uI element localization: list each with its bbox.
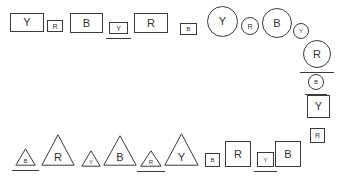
- shape-tri-r: R: [41, 134, 75, 166]
- shape-circ-b: B: [262, 8, 292, 38]
- triangle-outline: [164, 133, 199, 166]
- shape-label: R: [315, 132, 320, 139]
- shape-underline: [300, 72, 334, 73]
- shape-circ-y: Y: [293, 23, 309, 39]
- shape-sq-b: B: [205, 153, 220, 167]
- triangle-outline: [81, 150, 101, 167]
- triangle-outline: [41, 134, 75, 166]
- shape-rect-r: R: [134, 13, 168, 33]
- shape-rect-y: Y: [10, 13, 44, 32]
- shape-label: R: [147, 18, 155, 29]
- shape-label: R: [234, 149, 242, 160]
- shape-circ-b: B: [308, 74, 324, 90]
- triangle-outline: [140, 150, 162, 167]
- shape-sq-r: R: [310, 128, 325, 143]
- shape-rect-b: B: [70, 13, 103, 33]
- shape-label: B: [83, 18, 90, 29]
- shape-sq-b: B: [275, 141, 301, 167]
- shape-label: Y: [315, 101, 322, 112]
- shape-label: R: [247, 23, 252, 30]
- shape-circ-y: Y: [207, 6, 238, 37]
- shape-tri-r: R: [140, 150, 162, 167]
- shape-sq-r: R: [225, 141, 251, 167]
- shape-label: R: [313, 49, 321, 60]
- shape-label: B: [210, 157, 214, 163]
- shape-label: B: [284, 149, 291, 160]
- shape-tri-y: Y: [164, 133, 199, 166]
- shape-label: B: [186, 26, 190, 32]
- shape-label: Y: [23, 17, 30, 28]
- shape-underline: [106, 38, 131, 39]
- shape-underline: [137, 171, 165, 172]
- shape-label: Y: [219, 16, 226, 27]
- shape-tri-b: B: [15, 148, 36, 166]
- shape-sq-y: Y: [307, 95, 330, 118]
- shape-label: R: [52, 23, 57, 30]
- shape-sq-y: Y: [109, 22, 128, 34]
- shape-sq-r: R: [47, 20, 63, 32]
- shape-label: Y: [116, 25, 121, 32]
- shape-tri-b: B: [103, 135, 137, 166]
- shape-sq-y: Y: [257, 152, 274, 167]
- shape-circ-r: R: [241, 17, 259, 35]
- shape-tri-y: Y: [81, 150, 101, 167]
- shape-circ-r: R: [303, 40, 331, 68]
- shape-label: B: [273, 18, 280, 29]
- shape-label: Y: [299, 28, 303, 34]
- triangle-outline: [103, 135, 137, 166]
- shape-underline: [254, 171, 277, 172]
- triangle-outline: [15, 148, 36, 166]
- shape-sequence-canvas: YRBYRBYRBYRBYRBRYBRYBRYB: [0, 0, 342, 180]
- shape-label: B: [314, 79, 318, 85]
- shape-underline: [12, 170, 39, 171]
- shape-label: Y: [263, 157, 267, 163]
- shape-sq-b: B: [180, 23, 197, 35]
